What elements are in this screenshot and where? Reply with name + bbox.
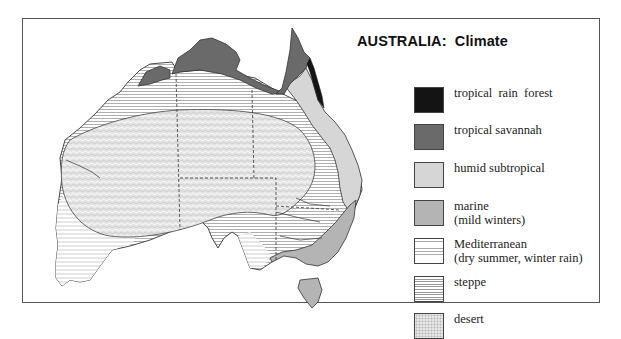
legend-sublabel: (dry summer, winter rain): [454, 251, 583, 265]
swatch-tropical-savannah: [414, 124, 444, 150]
swatch-tropical-rain-forest: [414, 87, 444, 113]
swatch-mediterranean: [414, 238, 444, 264]
map-title: AUSTRALIA: Climate: [357, 33, 508, 49]
legend-label: humid subtropical: [454, 161, 545, 175]
legend-label: marine: [454, 199, 489, 213]
swatch-desert: [414, 313, 444, 339]
legend-label: Mediterranean: [454, 237, 527, 251]
legend-label: tropical savannah: [454, 123, 542, 137]
swatch-marine: [414, 200, 444, 226]
legend-label: tropical rain forest: [454, 86, 553, 100]
swatch-steppe: [414, 276, 444, 302]
region-tasmania-marine: [298, 278, 322, 308]
legend-sublabel: (mild winters): [454, 213, 525, 227]
legend-label: steppe: [454, 275, 486, 289]
swatch-humid-subtropical: [414, 162, 444, 188]
legend-label: desert: [454, 312, 484, 326]
